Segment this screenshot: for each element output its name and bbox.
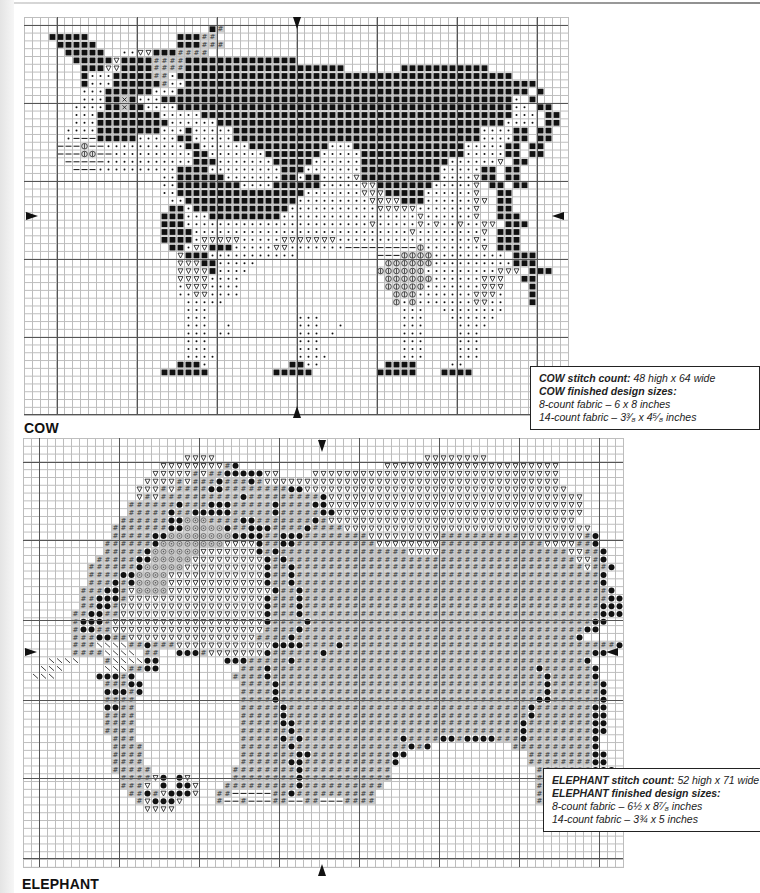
svg-text:#: # [505, 735, 511, 743]
svg-text:#: # [489, 634, 495, 642]
svg-text:#: # [113, 712, 119, 720]
svg-text:#: # [505, 602, 511, 610]
svg-text:#: # [353, 673, 359, 681]
svg-text:#: # [177, 485, 183, 493]
svg-text:#: # [513, 673, 519, 681]
svg-text:#: # [305, 610, 311, 618]
svg-text:#: # [257, 478, 263, 486]
svg-text:#: # [505, 540, 511, 548]
svg-text:#: # [489, 579, 495, 587]
svg-text:#: # [425, 587, 431, 595]
svg-text:#: # [281, 634, 287, 642]
svg-text:#: # [337, 758, 343, 766]
svg-text:#: # [313, 563, 319, 571]
svg-text:#: # [361, 602, 367, 610]
svg-text:#: # [321, 673, 327, 681]
svg-text:#: # [113, 524, 119, 532]
svg-text:#: # [273, 758, 279, 766]
svg-text:#: # [369, 595, 375, 603]
svg-text:#: # [521, 641, 527, 649]
svg-text:#: # [241, 758, 247, 766]
center-arrow-down-icon [293, 17, 301, 29]
svg-text:#: # [145, 540, 151, 548]
svg-text:#: # [505, 665, 511, 673]
svg-text:#: # [329, 649, 335, 657]
svg-text:#: # [169, 641, 175, 649]
svg-text:#: # [329, 758, 335, 766]
svg-text:#: # [569, 649, 575, 657]
heavy-gridline [199, 438, 200, 867]
svg-text:#: # [73, 634, 79, 642]
svg-text:#: # [505, 595, 511, 603]
svg-text:#: # [345, 571, 351, 579]
svg-text:#: # [577, 751, 583, 759]
heavy-gridline [24, 181, 568, 182]
svg-text:#: # [553, 556, 559, 564]
svg-text:#: # [265, 758, 271, 766]
svg-text:#: # [361, 673, 367, 681]
svg-text:#: # [425, 556, 431, 564]
svg-text:#: # [249, 665, 255, 673]
svg-text:#: # [409, 665, 415, 673]
svg-text:#: # [89, 649, 95, 657]
svg-text:#: # [161, 501, 167, 509]
svg-text:#: # [369, 766, 375, 774]
svg-text:#: # [273, 712, 279, 720]
svg-text:#: # [449, 532, 455, 540]
svg-text:#: # [281, 501, 287, 509]
svg-text:#: # [281, 680, 287, 688]
svg-text:#: # [233, 673, 239, 681]
svg-text:#: # [281, 571, 287, 579]
svg-text:#: # [529, 548, 535, 556]
svg-text:#: # [393, 571, 399, 579]
svg-text:#: # [145, 649, 151, 657]
svg-text:#: # [529, 587, 535, 595]
svg-text:#: # [473, 665, 479, 673]
elephant-size-14count: 14-count fabric – 3¾ x 5 inches [552, 813, 757, 826]
svg-text:#: # [265, 540, 271, 548]
svg-text:#: # [321, 563, 327, 571]
svg-text:#: # [577, 719, 583, 727]
svg-text:#: # [353, 727, 359, 735]
svg-text:#: # [593, 595, 599, 603]
svg-text:#: # [409, 634, 415, 642]
svg-text:#: # [313, 595, 319, 603]
svg-text:#: # [537, 634, 543, 642]
svg-text:#: # [529, 665, 535, 673]
svg-text:#: # [137, 641, 143, 649]
svg-text:#: # [569, 680, 575, 688]
svg-text:#: # [337, 626, 343, 634]
svg-text:#: # [449, 595, 455, 603]
svg-text:#: # [433, 657, 439, 665]
svg-text:#: # [265, 509, 271, 517]
svg-text:#: # [561, 727, 567, 735]
svg-text:#: # [321, 595, 327, 603]
svg-text:#: # [193, 470, 199, 478]
svg-text:#: # [569, 758, 575, 766]
cow-stitch-pattern: ##################### [24, 17, 568, 415]
svg-text:#: # [321, 548, 327, 556]
svg-text:#: # [377, 751, 383, 759]
svg-text:#: # [337, 524, 343, 532]
svg-text:#: # [577, 665, 583, 673]
svg-text:#: # [89, 563, 95, 571]
svg-text:#: # [281, 797, 287, 805]
svg-text:#: # [481, 540, 487, 548]
svg-text:#: # [577, 641, 583, 649]
svg-text:#: # [121, 758, 127, 766]
svg-text:#: # [465, 571, 471, 579]
svg-text:#: # [561, 680, 567, 688]
svg-text:#: # [265, 727, 271, 735]
svg-text:#: # [457, 602, 463, 610]
svg-text:#: # [273, 727, 279, 735]
svg-text:#: # [593, 688, 599, 696]
svg-text:#: # [289, 673, 295, 681]
svg-text:#: # [297, 665, 303, 673]
svg-text:#: # [297, 688, 303, 696]
svg-text:#: # [457, 657, 463, 665]
svg-text:#: # [257, 688, 263, 696]
heavy-gridline [23, 620, 623, 621]
svg-text:#: # [97, 587, 103, 595]
svg-text:#: # [329, 602, 335, 610]
svg-text:#: # [345, 665, 351, 673]
